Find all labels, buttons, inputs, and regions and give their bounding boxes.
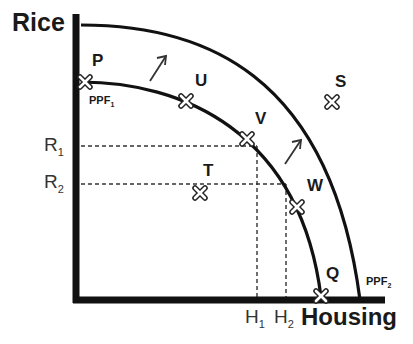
guide-lines — [81, 146, 286, 300]
y-axis-title: Rice — [12, 10, 65, 35]
r2-label: R2 — [44, 172, 64, 195]
r1-label: R1 — [44, 135, 64, 158]
point-p-marker — [80, 77, 90, 87]
point-q-marker — [316, 291, 326, 301]
point-w-label: W — [307, 177, 323, 194]
point-u-marker — [181, 96, 191, 106]
shift-arrow-icon — [285, 140, 301, 164]
ppf1-label: PPF1 — [89, 95, 114, 108]
shift-arrow-icon — [150, 56, 166, 81]
point-u-label: U — [195, 72, 207, 89]
point-s-marker — [327, 97, 337, 107]
x-axis-title: Housing — [301, 305, 397, 329]
point-t-marker — [195, 188, 205, 198]
h1-label: H1 — [245, 307, 265, 330]
ppf2-label: PPF2 — [366, 276, 391, 289]
point-w-marker — [292, 202, 302, 212]
point-p-label: P — [92, 52, 103, 69]
point-v-label: V — [255, 110, 266, 127]
point-s-label: S — [335, 73, 346, 90]
point-q-label: Q — [326, 265, 339, 282]
h2-label: H2 — [274, 307, 294, 330]
point-t-label: T — [203, 162, 213, 179]
point-v-marker — [242, 134, 252, 144]
ppf2-curve — [81, 25, 360, 300]
